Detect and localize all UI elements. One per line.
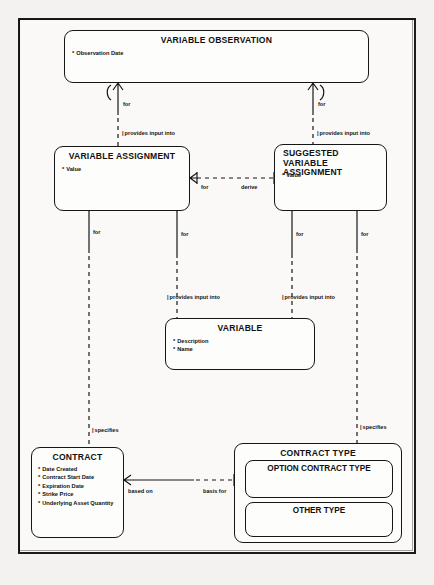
attribute-label: Expiration Date [42, 483, 84, 489]
relationship-label-va-contract-for: for [93, 229, 100, 235]
attribute-label: Name [177, 346, 193, 352]
relationship-label-ctype-basis-for: basis for [203, 488, 226, 494]
relationship-label-vo-sva-provides: |provides input into [317, 130, 370, 136]
attribute-marker: * [282, 172, 284, 178]
entity-title: VARIABLE ASSIGNMENT [55, 151, 189, 161]
entity-variable-assignment[interactable]: VARIABLE ASSIGNMENT *Value [54, 146, 190, 211]
relationship-label-sva-variable-provides: |provides input into [282, 294, 335, 300]
attribute-list: *Description *Name [173, 337, 310, 354]
label-text: provides input into [125, 130, 175, 136]
attribute-marker: * [62, 166, 64, 172]
relationship-label-ctype-specifies: |specifies [360, 424, 387, 430]
attribute-row: *Date Created [38, 465, 119, 473]
relationship-label-contract-based-on: based on [128, 488, 153, 494]
entity-contract[interactable]: CONTRACT *Date Created *Contract Start D… [31, 447, 124, 538]
entity-title: VARIABLE [166, 323, 314, 333]
subtype-title: OTHER TYPE [246, 506, 392, 515]
relationship-label-va-sva-for: for [201, 184, 208, 190]
entity-variable-observation[interactable]: VARIABLE OBSERVATION *Observation Date [64, 30, 369, 83]
attribute-marker: * [72, 50, 74, 56]
attribute-row: *Underlying Asset Quantity [38, 499, 119, 507]
attribute-list: *Value [62, 165, 185, 173]
relationship-label-vo-va-for: for [123, 101, 130, 107]
attribute-label: Value [286, 172, 301, 178]
entity-suggested-variable-assignment[interactable]: SUGGESTED VARIABLE ASSIGNMENT *Value [274, 144, 387, 211]
label-text: provides input into [320, 130, 370, 136]
attribute-label: Observation Date [76, 50, 123, 56]
relationship-label-vo-sva-for: for [318, 101, 325, 107]
attribute-marker: * [38, 491, 40, 497]
attribute-label: Contract Start Date [42, 474, 94, 480]
label-text: specifies [95, 427, 119, 433]
attribute-marker: * [38, 474, 40, 480]
attribute-label: Date Created [42, 466, 77, 472]
entity-title: CONTRACT TYPE [235, 448, 401, 458]
attribute-marker: * [173, 346, 175, 352]
relationship-label-sva-variable-for: for [296, 231, 303, 237]
entity-title: CONTRACT [32, 452, 123, 462]
attribute-row: *Contract Start Date [38, 473, 119, 481]
relationship-label-sva-ctype-for: for [361, 231, 368, 237]
entity-title-line-1: SUGGESTED VARIABLE [283, 149, 380, 168]
attribute-row: *Expiration Date [38, 482, 119, 490]
attribute-list: *Date Created *Contract Start Date *Expi… [38, 465, 119, 507]
subtype-option-contract-type[interactable]: OPTION CONTRACT TYPE [245, 460, 393, 498]
attribute-marker: * [173, 338, 175, 344]
attribute-row: *Strike Price [38, 490, 119, 498]
attribute-list: *Observation Date [72, 49, 364, 57]
attribute-row: *Value [282, 171, 382, 179]
scanned-page: VARIABLE OBSERVATION *Observation Date V… [0, 0, 434, 585]
entity-title: VARIABLE OBSERVATION [65, 35, 368, 45]
label-text: provides input into [170, 294, 220, 300]
attribute-marker: * [38, 500, 40, 506]
subtype-title: OPTION CONTRACT TYPE [246, 464, 392, 473]
entity-variable[interactable]: VARIABLE *Description *Name [165, 318, 315, 370]
label-text: provides input into [285, 294, 335, 300]
entity-contract-type[interactable]: CONTRACT TYPE OPTION CONTRACT TYPE OTHER… [234, 443, 402, 543]
attribute-label: Strike Price [42, 491, 73, 497]
attribute-row: *Description [173, 337, 310, 345]
attribute-list: *Value [282, 171, 382, 179]
subtype-other-type[interactable]: OTHER TYPE [245, 502, 393, 537]
attribute-row: *Value [62, 165, 185, 173]
attribute-label: Value [66, 166, 81, 172]
attribute-label: Underlying Asset Quantity [42, 500, 113, 506]
relationship-label-va-variable-provides: |provides input into [167, 294, 220, 300]
relationship-label-va-sva-derive: derive [241, 184, 257, 190]
attribute-label: Description [177, 338, 208, 344]
relationship-label-va-variable-for: for [181, 231, 188, 237]
attribute-marker: * [38, 483, 40, 489]
relationship-label-vo-va-provides: |provides input into [122, 130, 175, 136]
label-text: specifies [363, 424, 387, 430]
attribute-marker: * [38, 466, 40, 472]
relationship-label-contract-specifies: |specifies [92, 427, 119, 433]
attribute-row: *Observation Date [72, 49, 364, 57]
attribute-row: *Name [173, 345, 310, 353]
